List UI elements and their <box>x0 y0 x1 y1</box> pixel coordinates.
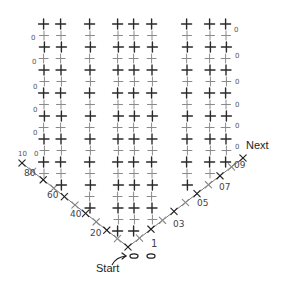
right-row-label: 0 <box>235 122 239 131</box>
left-row-label: 0 <box>33 129 37 138</box>
right-row-label: 0 <box>235 78 239 87</box>
right-row-label: 0 <box>234 26 238 35</box>
stitch-chart <box>0 0 283 287</box>
chain-stitch-icon <box>130 254 138 258</box>
right-diagonal-label-05: 05 <box>197 199 208 208</box>
left-row-label: 0 <box>33 106 37 115</box>
next-label: Next <box>246 141 269 150</box>
left-row-label: 0 <box>31 34 35 43</box>
left-row-label: 0 <box>33 83 37 92</box>
left-diagonal-label-80: 80 <box>24 169 35 178</box>
left-row-10-prefix: 10 <box>18 150 27 159</box>
right-row-label: 0 <box>235 101 239 110</box>
left-row-label: 0 <box>34 150 38 159</box>
right-diagonal-label-1: 1 <box>151 239 157 248</box>
left-row-label: 0 <box>32 58 36 67</box>
right-diagonal-label-03: 03 <box>173 220 184 229</box>
chain-stitch-icon <box>147 254 155 258</box>
left-diagonal-label-40: 40 <box>70 210 81 219</box>
right-row-label: 0 <box>235 52 239 61</box>
left-diagonal-label-60: 60 <box>47 191 58 200</box>
right-row-label: 0 <box>235 143 239 152</box>
right-diagonal-label-09: 09 <box>234 161 245 170</box>
start-label: Start <box>96 264 119 273</box>
right-diagonal-label-07: 07 <box>219 183 230 192</box>
left-diagonal-label-20: 20 <box>90 229 101 238</box>
